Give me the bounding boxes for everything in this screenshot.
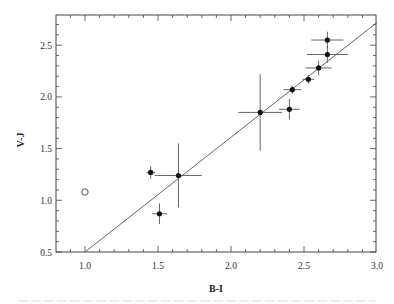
y-axis-label: V-J [15, 133, 26, 148]
fit-line [85, 22, 377, 252]
x-tick-label: 1.5 [152, 261, 164, 271]
axis-ticks [56, 15, 376, 252]
x-tick-label: 3.0 [371, 261, 383, 271]
filled-circle-marker [290, 87, 295, 92]
filled-circle-marker [176, 173, 181, 178]
plot-border [56, 15, 376, 252]
error-bars [146, 32, 347, 224]
x-tick-label: 1.0 [79, 261, 91, 271]
x-tick-label: 2.0 [225, 261, 237, 271]
filled-circle-marker [325, 37, 330, 42]
filled-circle-marker [258, 110, 263, 115]
regression-line [85, 22, 377, 252]
filled-circle-marker [325, 52, 330, 57]
filled-circle-marker [287, 107, 292, 112]
y-tick-label: 2.5 [40, 41, 52, 51]
filled-circle-marker [316, 65, 321, 70]
x-axis-label: B-I [209, 283, 223, 294]
filled-circle-marker [157, 211, 162, 216]
open-circle-marker [82, 189, 88, 195]
y-tick-label: 0.5 [40, 248, 52, 258]
filled-circle-marker [148, 170, 153, 175]
plot-frame [56, 15, 376, 252]
data-points [82, 37, 330, 216]
y-tick-label: 1.5 [40, 144, 52, 154]
y-tick-label: 2.0 [40, 92, 52, 102]
filled-circle-marker [306, 77, 311, 82]
scatter-plot: 1.01.52.02.53.00.51.01.52.02.5 B-I V-J [0, 0, 394, 304]
x-tick-label: 2.5 [298, 261, 310, 271]
cut-off-caption [18, 300, 376, 302]
y-tick-label: 1.0 [40, 196, 52, 206]
tick-labels: 1.01.52.02.53.00.51.01.52.02.5 [40, 41, 383, 271]
